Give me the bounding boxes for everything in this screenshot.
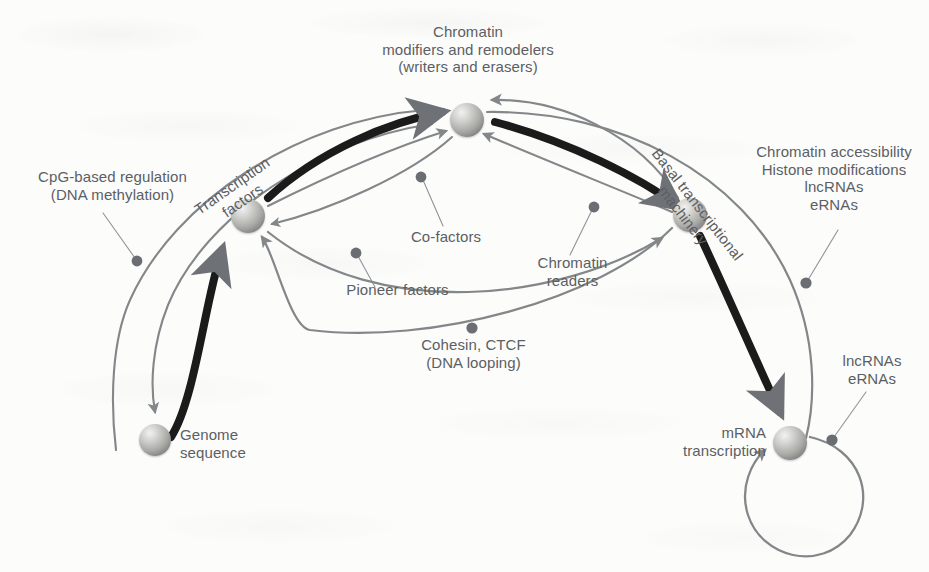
co-factors-annotation: Co-factors (396, 228, 496, 246)
mrna-transcription-node[interactable] (773, 426, 807, 460)
edge-genome-to-transcription-factors (171, 250, 222, 437)
leader-rnas (834, 392, 866, 437)
genome-sequence-label: Genome sequence (180, 426, 300, 461)
chromatin-accessibility-annotation: Chromatin accessibility Histone modifica… (738, 143, 929, 214)
mrna-transcription-label: mRNA transcription (620, 424, 766, 459)
dot-cpg (132, 256, 143, 267)
lncrnas-ernas-annotation: lncRNAs eRNAs (820, 352, 924, 387)
chromatin-label: Chromatin modifiers and remodelers (writ… (348, 23, 588, 76)
chromatin-modifiers-node[interactable] (450, 103, 484, 137)
edge-transcription-factors-to-chromatin (268, 112, 442, 198)
pioneer-factors-annotation: Pioneer factors (330, 281, 465, 299)
cohesin-ctcf-annotation: Cohesin, CTCF (DNA looping) (396, 336, 551, 371)
dot-accessibility (800, 277, 811, 288)
dot-pioneer (351, 248, 362, 259)
dot-cohesin (466, 322, 477, 333)
chromatin-readers-annotation: Chromatin readers (505, 254, 640, 289)
dot-readers (589, 202, 600, 213)
leader-readers (570, 210, 592, 255)
leader-cpg (103, 213, 135, 258)
leader-cofactors (423, 180, 443, 226)
diagram-canvas: Chromatin modifiers and remodelers (writ… (0, 0, 929, 572)
genome-sequence-node[interactable] (139, 424, 171, 456)
leader-accessibility (808, 230, 838, 280)
cpg-annotation: CpG-based regulation (DNA methylation) (10, 168, 215, 203)
dot-cofactors (416, 172, 427, 183)
dot-rnas (826, 434, 837, 445)
